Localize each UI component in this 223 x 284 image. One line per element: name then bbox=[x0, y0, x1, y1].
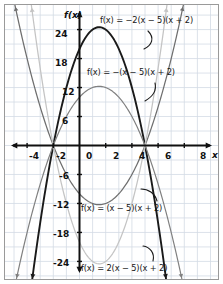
y-tick-12: 12 bbox=[62, 87, 75, 97]
function-curves bbox=[5, 5, 210, 279]
graph-figure: f(x) = −2(x − 5)(x + 2) f(x) = −(x − 5)(… bbox=[0, 0, 223, 284]
x-tick-neg4: -4 bbox=[29, 151, 39, 161]
y-axis-label: f(x) bbox=[64, 10, 82, 20]
y-tick-neg18: -18 bbox=[53, 229, 69, 239]
equation-label-1: f(x) = −2(x − 5)(x + 2) bbox=[100, 15, 193, 25]
y-tick-neg12: -12 bbox=[53, 200, 69, 210]
y-tick-18: 18 bbox=[55, 58, 68, 68]
x-tick-neg2: -2 bbox=[56, 151, 66, 161]
x-tick-8: 8 bbox=[200, 151, 206, 161]
axis-lines bbox=[11, 11, 212, 273]
y-tick-6: 6 bbox=[62, 116, 68, 126]
x-axis-label: x bbox=[212, 150, 218, 160]
y-tick-24: 24 bbox=[55, 29, 68, 39]
x-tick-4: 4 bbox=[139, 151, 145, 161]
graph-canvas bbox=[5, 5, 218, 279]
equation-label-3: f(x) = (x − 5)(x + 2) bbox=[81, 203, 162, 213]
plot-area: f(x) = −2(x − 5)(x + 2) f(x) = −(x − 5)(… bbox=[4, 4, 219, 280]
equation-label-2: f(x) = −(x − 5)(x + 2) bbox=[87, 67, 175, 77]
x-tick-6: 6 bbox=[165, 151, 171, 161]
y-tick-neg24: -24 bbox=[53, 258, 69, 268]
x-tick-2: 2 bbox=[113, 151, 119, 161]
x-tick-0: 0 bbox=[86, 151, 92, 161]
equation-label-4: f(x) = 2(x − 5)(x + 2) bbox=[81, 263, 167, 273]
y-tick-neg6: -6 bbox=[59, 171, 69, 181]
